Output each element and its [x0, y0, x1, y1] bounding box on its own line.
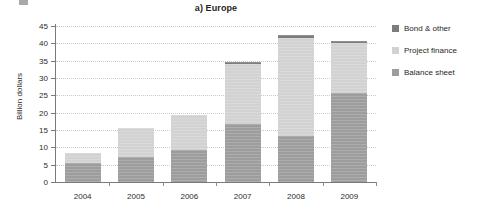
bar-segment-project-finance[interactable] — [225, 64, 261, 124]
legend-item[interactable]: Project finance — [392, 44, 481, 56]
bar-stack[interactable] — [171, 26, 207, 182]
gridline — [56, 26, 376, 27]
bar-segment-project-finance[interactable] — [65, 153, 101, 164]
scan-artifact — [19, 0, 28, 5]
x-tick-label: 2005 — [127, 192, 145, 201]
y-tick-label: 0 — [44, 178, 48, 187]
x-tick-mark — [323, 182, 324, 186]
y-tick-label: 10 — [39, 143, 48, 152]
x-tick-label: 2008 — [287, 192, 305, 201]
y-tick-label: 45 — [39, 22, 48, 31]
legend-swatch-icon — [392, 69, 399, 76]
bar-segment-balance-sheet[interactable] — [278, 136, 314, 182]
x-tick-label: 2006 — [180, 192, 198, 201]
y-tick-mark — [51, 26, 56, 27]
x-tick-mark — [216, 182, 217, 186]
y-tick-mark — [51, 61, 56, 62]
x-tick-label: 2007 — [234, 192, 252, 201]
bar-segment-project-finance[interactable] — [171, 115, 207, 150]
legend-swatch-icon — [392, 25, 399, 32]
gridline — [56, 43, 376, 44]
x-tick-mark — [109, 182, 110, 186]
x-tick-label: 2009 — [340, 192, 358, 201]
bar-stack[interactable] — [118, 26, 154, 182]
y-tick-label: 25 — [39, 91, 48, 100]
bar-segment-balance-sheet[interactable] — [118, 157, 154, 182]
y-tick-mark — [51, 43, 56, 44]
x-tick-mark — [163, 182, 164, 186]
legend-swatch-icon — [392, 47, 399, 54]
x-tick-mark — [269, 182, 270, 186]
y-tick-mark — [51, 147, 56, 148]
legend-label: Bond & other — [404, 24, 451, 33]
bar-stack[interactable] — [278, 26, 314, 182]
bar-segment-balance-sheet[interactable] — [331, 93, 367, 182]
bar-segment-balance-sheet[interactable] — [225, 124, 261, 182]
y-tick-mark — [51, 182, 56, 183]
y-tick-label: 5 — [44, 160, 48, 169]
bar-segment-bond-other[interactable] — [331, 41, 367, 43]
chart-figure: a) Europe Billion dollars 05101520253035… — [0, 0, 481, 215]
chart-legend: Bond & otherProject financeBalance sheet — [392, 22, 481, 88]
plot-area: 051015202530354045 — [56, 26, 376, 182]
bar-segment-project-finance[interactable] — [278, 38, 314, 136]
legend-item[interactable]: Bond & other — [392, 22, 481, 34]
y-tick-label: 35 — [39, 56, 48, 65]
y-axis-label: Billion dollars — [15, 57, 24, 137]
gridline — [56, 113, 376, 114]
gridline — [56, 61, 376, 62]
bar-segment-project-finance[interactable] — [118, 128, 154, 157]
bar-segment-balance-sheet[interactable] — [171, 150, 207, 182]
y-tick-label: 30 — [39, 74, 48, 83]
x-tick-mark — [376, 182, 377, 186]
y-tick-mark — [51, 95, 56, 96]
bar-stack[interactable] — [225, 26, 261, 182]
bar-segment-balance-sheet[interactable] — [65, 163, 101, 182]
y-tick-mark — [51, 165, 56, 166]
y-tick-mark — [51, 130, 56, 131]
x-tick-label: 2004 — [74, 192, 92, 201]
legend-item[interactable]: Balance sheet — [392, 66, 481, 78]
y-tick-label: 20 — [39, 108, 48, 117]
y-tick-mark — [51, 113, 56, 114]
bar-segment-project-finance[interactable] — [331, 43, 367, 92]
bar-segment-bond-other[interactable] — [225, 62, 261, 64]
bar-stack[interactable] — [331, 26, 367, 182]
gridline — [56, 130, 376, 131]
y-tick-mark — [51, 78, 56, 79]
legend-label: Balance sheet — [404, 68, 455, 77]
bar-segment-bond-other[interactable] — [278, 35, 314, 37]
gridline — [56, 147, 376, 148]
gridline — [56, 95, 376, 96]
y-tick-label: 15 — [39, 126, 48, 135]
y-tick-label: 40 — [39, 39, 48, 48]
chart-title: a) Europe — [56, 3, 376, 13]
gridline — [56, 78, 376, 79]
legend-label: Project finance — [404, 46, 457, 55]
gridline — [56, 165, 376, 166]
bar-stack[interactable] — [65, 26, 101, 182]
